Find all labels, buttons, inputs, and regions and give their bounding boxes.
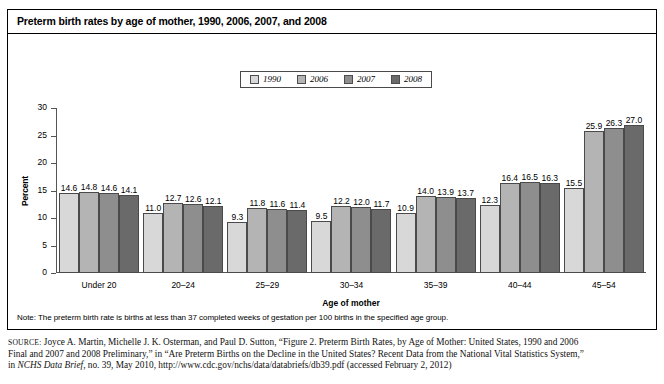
bar[interactable]: 27.0 [624,125,644,274]
bar-value-label: 10.9 [397,203,414,213]
legend-swatch-2006 [297,75,306,84]
source-line-1: SOURCE: Joyce A. Martin, Michelle J. K. … [8,337,660,349]
bar-value-label: 14.6 [101,183,118,193]
x-axis-tick-labels: Under 2020–2425–2930–3435–3940–4445–54 [57,280,646,290]
bar-value-label: 12.0 [353,197,370,207]
y-tick-label-20: 20 [38,157,47,167]
chart-legend: 1990200620072008 [240,71,432,88]
bar-value-label: 26.3 [606,118,623,128]
legend-label-1990: 1990 [263,75,281,84]
bar[interactable]: 12.1 [203,206,223,273]
bar[interactable]: 9.3 [227,222,247,273]
bar[interactable]: 11.8 [247,208,267,273]
legend-item-2008[interactable]: 2008 [391,75,422,84]
bar-value-label: 11.8 [249,198,265,208]
bar-value-label: 12.6 [185,194,202,204]
bar-value-label: 11.7 [374,199,390,209]
bar-value-label: 12.2 [333,196,350,206]
bar-value-label: 14.8 [81,182,98,192]
bar[interactable]: 10.9 [396,213,416,273]
y-tick-label-25: 25 [38,130,47,140]
figure-page: Preterm birth rates by age of mother, 19… [0,0,664,384]
legend-swatch-2007 [344,75,353,84]
bar-value-label: 13.7 [457,188,474,198]
bar-value-label: 9.5 [316,211,328,221]
bar[interactable]: 14.0 [416,196,436,273]
y-tick-label-0: 0 [42,267,47,277]
bar-value-label: 14.1 [121,185,138,195]
bar[interactable]: 11.7 [371,209,391,273]
bar[interactable]: 9.5 [311,221,331,273]
x-axis-title: Age of mother [56,298,646,308]
source-line-3-suffix: , no. 39, May 2010, http://www.cdc.gov/n… [83,360,451,370]
bar[interactable]: 13.9 [436,197,456,273]
bar[interactable]: 12.7 [163,203,183,273]
bar[interactable]: 16.4 [500,183,520,273]
bar-group: 10.914.013.913.7 [394,108,478,273]
x-axis-label: 20–24 [141,280,225,290]
bar-group: 9.311.811.611.4 [225,108,309,273]
bar-group: 14.614.814.614.1 [57,108,141,273]
bar-value-label: 12.7 [165,193,182,203]
figure-box: Preterm birth rates by age of mother, 19… [7,9,657,330]
bar[interactable]: 13.7 [456,198,476,273]
source-publication-title: NCHS Data Brief [18,360,84,370]
y-tick-10: 10 [51,218,56,219]
legend-item-1990[interactable]: 1990 [250,75,281,84]
bar[interactable]: 25.9 [584,131,604,273]
bar[interactable]: 11.6 [267,209,287,273]
legend-label-2006: 2006 [310,75,328,84]
x-axis-label: 30–34 [309,280,393,290]
bar-group: 11.012.712.612.1 [141,108,225,273]
plot-area: 051015202530 14.614.814.614.111.012.712.… [56,108,646,273]
bar-value-label: 11.6 [269,199,285,209]
source-label: SOURCE: [8,338,41,347]
x-axis-label: 25–29 [225,280,309,290]
bar[interactable]: 16.3 [540,183,560,273]
bar[interactable]: 26.3 [604,128,624,273]
y-axis-title: Percent [20,161,30,221]
y-tick-label-15: 15 [38,185,47,195]
bar-value-label: 13.9 [437,187,454,197]
y-tick-25: 25 [51,136,56,137]
y-tick-label-10: 10 [38,212,47,222]
bar-value-label: 16.4 [501,173,518,183]
bar[interactable]: 14.6 [59,193,79,273]
bar[interactable]: 12.6 [183,204,203,273]
bar-value-label: 12.1 [205,196,222,206]
source-line-3-prefix: in [8,360,18,370]
bar[interactable]: 14.8 [79,192,99,273]
bar-value-label: 9.3 [231,212,243,222]
bar-value-label: 25.9 [586,121,603,131]
x-axis-label: 35–39 [394,280,478,290]
bar[interactable]: 12.2 [331,206,351,273]
bar-group: 9.512.212.011.7 [309,108,393,273]
bar[interactable]: 12.0 [351,207,371,273]
bar[interactable]: 14.1 [119,195,139,273]
legend-label-2007: 2007 [357,75,375,84]
legend-swatch-2008 [391,75,400,84]
legend-label-2008: 2008 [404,75,422,84]
bar[interactable]: 11.4 [287,210,307,273]
bar[interactable]: 12.3 [480,205,500,273]
bar[interactable]: 15.5 [564,188,584,273]
bar-value-label: 11.0 [145,203,161,213]
bar-group: 15.525.926.327.0 [562,108,646,273]
legend-item-2007[interactable]: 2007 [344,75,375,84]
bar[interactable]: 14.6 [99,193,119,273]
bar-value-label: 12.3 [481,195,498,205]
x-axis-label: 45–54 [562,280,646,290]
legend-item-2006[interactable]: 2006 [297,75,328,84]
y-tick-15: 15 [51,191,56,192]
x-axis-label: Under 20 [57,280,141,290]
source-line-1-text: Joyce A. Martin, Michelle J. K. Osterman… [41,337,578,347]
bar-value-label: 16.3 [541,173,558,183]
bar[interactable]: 11.0 [143,213,163,274]
y-tick-label-5: 5 [42,240,47,250]
source-citation: SOURCE: Joyce A. Martin, Michelle J. K. … [8,337,660,372]
source-line-3: in NCHS Data Brief, no. 39, May 2010, ht… [8,360,660,372]
x-axis-label: 40–44 [478,280,562,290]
bar[interactable]: 16.5 [520,182,540,273]
source-line-2: Final and 2007 and 2008 Preliminary,” in… [8,349,660,361]
y-tick-30: 30 [51,108,56,109]
